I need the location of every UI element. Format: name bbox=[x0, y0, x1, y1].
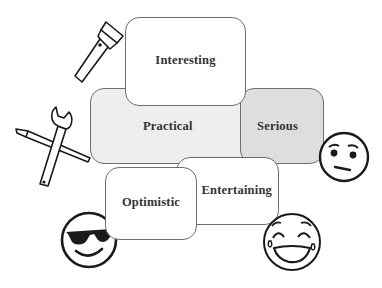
serious-box: Serious bbox=[240, 88, 324, 164]
optimistic-label: Optimistic bbox=[122, 195, 180, 210]
practical-label: Practical bbox=[143, 119, 193, 134]
serious-label: Serious bbox=[257, 119, 298, 134]
flashlight-icon bbox=[70, 18, 130, 90]
neutral-face-icon bbox=[317, 130, 371, 184]
optimistic-box: Optimistic bbox=[105, 167, 197, 240]
laughing-tears-face-icon bbox=[261, 211, 323, 273]
entertaining-label: Entertaining bbox=[202, 183, 272, 198]
interesting-box: Interesting bbox=[125, 17, 246, 106]
wrench-screwdriver-icon bbox=[14, 104, 98, 194]
interesting-label: Interesting bbox=[155, 53, 215, 68]
